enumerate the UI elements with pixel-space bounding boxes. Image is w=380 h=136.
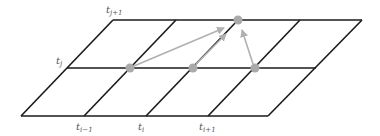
label-t-i-plus-1: ti+1 [199,121,216,134]
arrow-left-to-target [134,28,224,66]
label-t-j: tj [56,55,63,68]
stencil-arrows [134,28,253,66]
stencil-nodes [126,16,260,73]
label-t-i: ti [138,121,144,134]
node-source-left [126,64,135,73]
node-target-top [234,16,243,25]
stencil-diagram: tj+1 tj ti−1 ti ti+1 [0,0,380,136]
label-t-j-plus-1: tj+1 [106,4,123,17]
arrow-right-to-target [242,30,253,64]
node-source-center [189,64,198,73]
label-t-i-minus-1: ti−1 [76,121,93,134]
node-source-right [251,64,260,73]
